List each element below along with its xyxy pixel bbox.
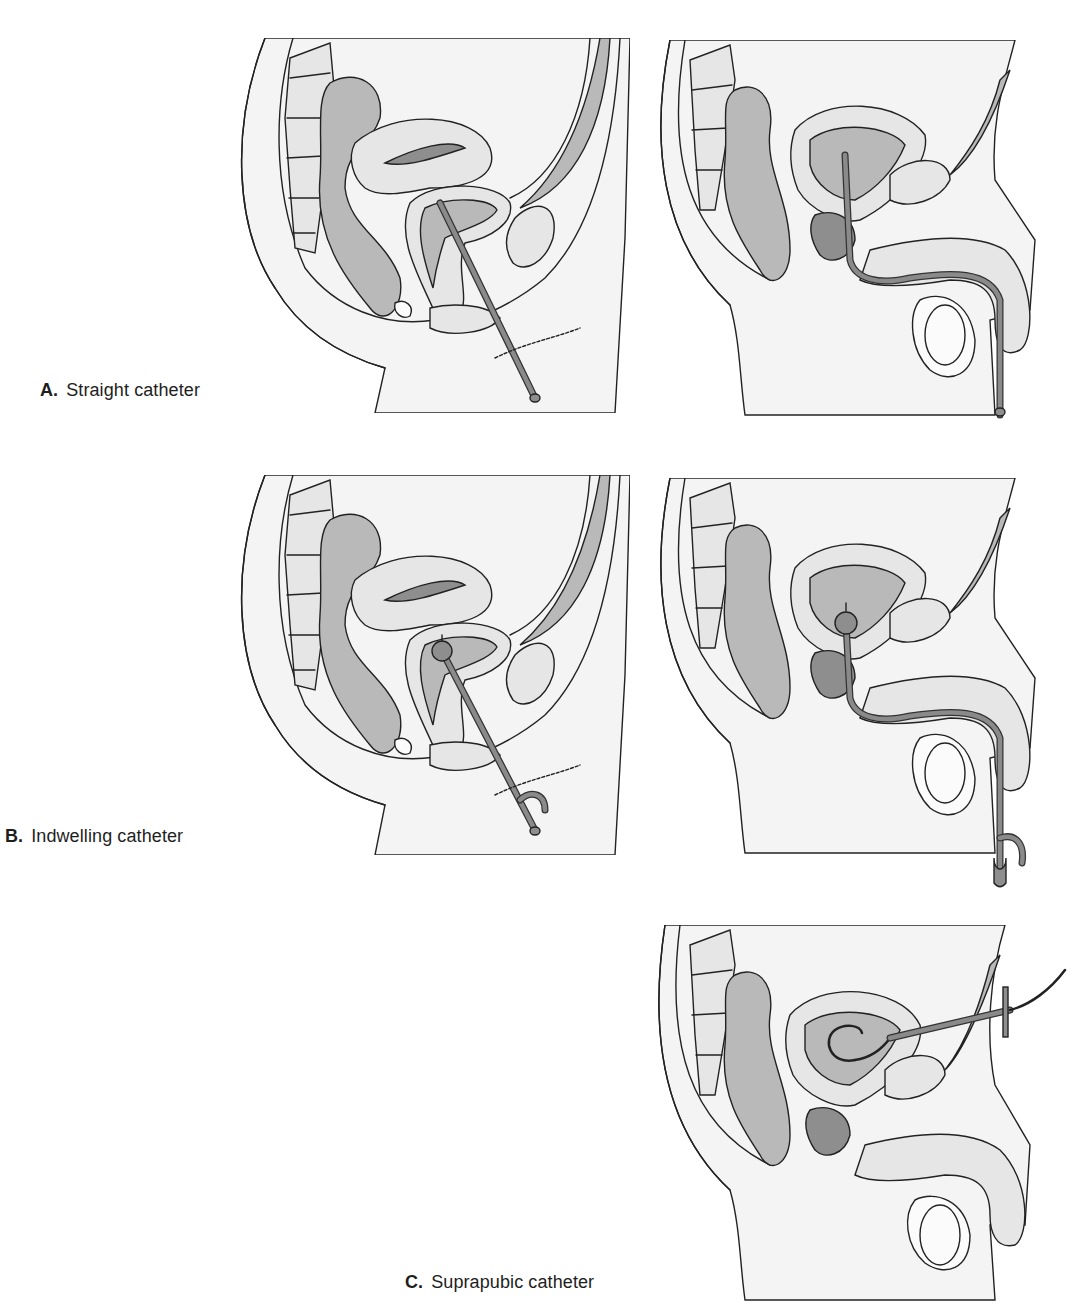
caption-letter: B. bbox=[5, 826, 23, 846]
female-pelvis-straight-catheter-icon bbox=[235, 38, 630, 413]
female-pelvis-indwelling-catheter-icon bbox=[235, 475, 630, 855]
male-pelvis-indwelling-catheter bbox=[650, 478, 1070, 888]
caption-indwelling-catheter: B.Indwelling catheter bbox=[5, 826, 183, 847]
caption-straight-catheter: A.Straight catheter bbox=[40, 380, 200, 401]
male-pelvis-indwelling-catheter-icon bbox=[650, 478, 1070, 888]
male-pelvis-straight-catheter bbox=[650, 40, 1070, 420]
male-pelvis-suprapubic-catheter-icon bbox=[650, 925, 1070, 1305]
caption-suprapubic-catheter: C.Suprapubic catheter bbox=[405, 1272, 594, 1293]
caption-text: Indwelling catheter bbox=[31, 826, 183, 846]
male-pelvis-suprapubic-catheter bbox=[650, 925, 1070, 1305]
female-pelvis-straight-catheter bbox=[235, 38, 630, 413]
caption-letter: C. bbox=[405, 1272, 423, 1292]
female-pelvis-indwelling-catheter bbox=[235, 475, 630, 855]
caption-text: Straight catheter bbox=[66, 380, 200, 400]
caption-text: Suprapubic catheter bbox=[431, 1272, 594, 1292]
male-pelvis-straight-catheter-icon bbox=[650, 40, 1070, 420]
caption-letter: A. bbox=[40, 380, 58, 400]
